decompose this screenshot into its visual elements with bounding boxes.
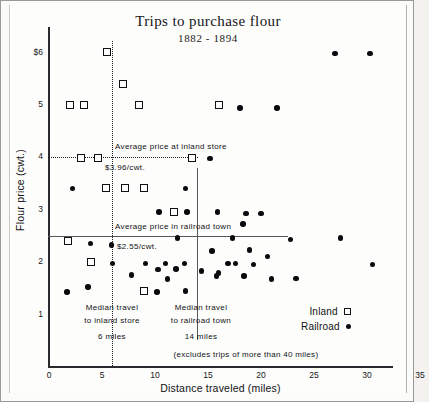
data-point-railroad: [143, 261, 149, 267]
data-point-railroad: [274, 105, 280, 111]
annotation-median-railroad: Median travel to railroad town 14 miles: [141, 302, 261, 343]
data-point-railroad: [154, 289, 160, 295]
data-point-railroad: [85, 284, 91, 290]
data-point-railroad: [293, 276, 299, 282]
data-point-inland: [121, 184, 129, 192]
reference-line-average-price-inland-store: [48, 157, 198, 158]
y-axis-tick-1: 1: [17, 309, 43, 319]
data-point-railroad: [241, 273, 247, 279]
data-point-inland: [215, 101, 223, 109]
data-point-railroad: [173, 266, 179, 272]
annotation-inland-average-label: Average price at inland store: [115, 142, 227, 151]
y-axis-tick-6: $6: [17, 47, 43, 57]
data-point-inland: [140, 184, 148, 192]
annotation-inland-average-value: $3.96/cwt.: [105, 163, 145, 172]
data-point-inland: [170, 208, 178, 216]
median-railroad-line2: to railroad town: [141, 315, 261, 328]
chart-legend: Inland Railroad: [301, 304, 351, 334]
y-axis-title: Flour price (cwt.): [14, 115, 26, 265]
data-point-railroad: [243, 211, 249, 217]
scatter-plot: Trips to purchase flour 1882 - 1894 $654…: [1, 1, 415, 402]
data-point-inland: [64, 237, 72, 245]
x-axis-line: [48, 366, 393, 368]
median-railroad-line1: Median travel: [141, 302, 261, 315]
data-point-railroad: [247, 247, 253, 253]
data-point-railroad: [370, 262, 376, 268]
data-point-inland: [135, 101, 143, 109]
data-point-railroad: [155, 267, 161, 273]
x-axis-tick-10: 10: [142, 370, 168, 380]
data-point-railroad: [184, 209, 190, 215]
data-point-railroad: [240, 221, 246, 227]
chart-footnote: (excludes trips of more than 40 miles): [131, 350, 361, 359]
data-point-inland: [119, 80, 127, 88]
data-point-inland: [103, 48, 111, 56]
x-axis-tick-15: 15: [195, 370, 221, 380]
legend-item-inland: Inland: [301, 304, 351, 319]
data-point-railroad: [88, 241, 94, 247]
data-point-railroad: [288, 237, 294, 243]
data-point-railroad: [269, 276, 275, 282]
data-point-railroad: [258, 211, 264, 217]
chart-title: Trips to purchase flour: [1, 13, 415, 30]
data-point-inland: [66, 101, 74, 109]
data-point-railroad: [163, 261, 169, 267]
data-point-railroad: [183, 186, 189, 192]
median-railroad-value: 14 miles: [141, 331, 261, 343]
data-point-inland: [94, 154, 102, 162]
data-point-railroad: [109, 242, 115, 248]
data-point-inland: [140, 287, 148, 295]
data-point-railroad: [230, 235, 236, 241]
data-point-railroad: [265, 254, 271, 260]
data-point-inland: [102, 184, 110, 192]
data-point-railroad: [338, 235, 344, 241]
x-axis-title: Distance traveled (miles): [48, 382, 393, 394]
data-point-railroad: [237, 105, 243, 111]
data-point-railroad: [332, 51, 338, 57]
x-axis-tick-30: 30: [354, 370, 380, 380]
data-point-railroad: [182, 261, 188, 267]
filled-circle-icon: [346, 324, 351, 329]
data-point-railroad: [215, 209, 221, 215]
x-axis-tick-35: 35: [407, 370, 429, 380]
x-axis-tick-25: 25: [301, 370, 327, 380]
data-point-railroad: [129, 272, 135, 278]
x-axis-tick-0: 0: [36, 370, 62, 380]
data-point-railroad: [214, 273, 220, 279]
legend-item-railroad: Railroad: [301, 319, 351, 334]
data-point-inland: [77, 154, 85, 162]
data-point-railroad: [64, 289, 70, 295]
data-point-railroad: [225, 261, 231, 267]
data-point-railroad: [233, 261, 239, 267]
annotation-railroad-average-label: Average price in railroad town: [115, 222, 231, 231]
y-axis-tick-5: 5: [17, 99, 43, 109]
annotation-railroad-average-value: $2.55/cwt.: [117, 242, 157, 251]
legend-label-railroad: Railroad: [301, 321, 340, 332]
x-axis-tick-20: 20: [248, 370, 274, 380]
chart-subtitle: 1882 - 1894: [1, 32, 415, 44]
data-point-railroad: [175, 235, 181, 241]
y-axis-line: [48, 27, 50, 368]
x-axis-tick-5: 5: [89, 370, 115, 380]
data-point-railroad: [199, 268, 205, 274]
data-point-railroad: [110, 261, 116, 267]
reference-line-average-price-railroad-town: [48, 236, 288, 237]
data-point-railroad: [367, 51, 373, 57]
data-point-railroad: [251, 262, 257, 268]
open-square-icon: [344, 308, 351, 315]
data-point-railroad: [209, 248, 215, 254]
data-point-railroad: [165, 276, 171, 282]
legend-label-inland: Inland: [309, 306, 337, 317]
data-point-railroad: [70, 186, 76, 192]
data-point-railroad: [207, 156, 213, 162]
data-point-inland: [188, 154, 196, 162]
data-point-inland: [87, 258, 95, 266]
data-point-railroad: [183, 288, 189, 294]
data-point-railroad: [156, 209, 162, 215]
data-point-inland: [80, 101, 88, 109]
